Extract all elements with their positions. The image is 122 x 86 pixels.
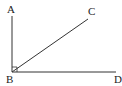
label-a: A bbox=[7, 3, 15, 15]
label-c: C bbox=[88, 5, 95, 17]
label-d: D bbox=[114, 73, 122, 85]
label-b: B bbox=[6, 73, 13, 85]
segment-bc bbox=[12, 19, 88, 72]
angle-diagram: A C B D bbox=[0, 0, 122, 86]
